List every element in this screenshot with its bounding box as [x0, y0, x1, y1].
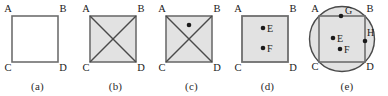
- corner-label-c: C: [4, 62, 11, 73]
- panel-caption-a: (a): [0, 80, 75, 92]
- point-marker-e: [331, 36, 336, 41]
- panel-caption-d: (d): [230, 80, 305, 92]
- panel-caption-e: (e): [306, 80, 388, 92]
- panel-caption-c: (c): [154, 80, 229, 92]
- corner-label-d: D: [213, 62, 221, 73]
- panel-b-drawing: A B C D: [78, 0, 153, 78]
- point-label-e: E: [267, 23, 273, 34]
- corner-label-a: A: [311, 3, 319, 14]
- corner-label-c: C: [158, 62, 165, 73]
- panel-caption-b: (b): [78, 80, 153, 92]
- point-label-g: G: [345, 5, 352, 16]
- corner-label-b: B: [289, 3, 296, 14]
- point-label-f: F: [344, 44, 350, 55]
- corner-label-d: D: [366, 61, 374, 72]
- figure-panel-d: E F A B C D (d): [230, 0, 305, 96]
- figure-panel-b: A B C D (b): [78, 0, 153, 96]
- point-marker-f: [338, 47, 343, 52]
- panel-a-drawing: A B C D: [0, 0, 75, 78]
- corner-label-c: C: [82, 62, 89, 73]
- point-marker-h: [363, 39, 368, 44]
- point-marker-unlabeled: [187, 23, 192, 28]
- corner-label-a: A: [4, 3, 12, 14]
- corner-label-d: D: [137, 62, 145, 73]
- figure-panel-a: A B C D (a): [0, 0, 75, 96]
- corner-label-b: B: [59, 3, 66, 14]
- point-label-h: H: [367, 27, 374, 38]
- point-label-f: F: [267, 43, 273, 54]
- point-marker-g: [339, 14, 344, 19]
- corner-label-a: A: [234, 3, 242, 14]
- point-label-e: E: [337, 33, 343, 44]
- point-marker-e: [261, 26, 266, 31]
- panel-c-drawing: A B C D: [154, 0, 229, 78]
- corner-label-b: B: [366, 3, 373, 14]
- corner-label-b: B: [213, 3, 220, 14]
- figure-panel-e: G E F H A B C D (e): [306, 0, 388, 96]
- panel-e-drawing: G E F H A B C D: [306, 0, 388, 78]
- corner-label-d: D: [59, 62, 67, 73]
- corner-label-a: A: [158, 3, 166, 14]
- corner-label-b: B: [137, 3, 144, 14]
- square-shape: [242, 16, 288, 62]
- corner-label-a: A: [82, 3, 90, 14]
- point-marker-f: [261, 46, 266, 51]
- square-shape: [12, 16, 58, 62]
- figure-panel-c: A B C D (c): [154, 0, 229, 96]
- geometry-figure-strip: A B C D (a) A B C D (b) A B C D: [0, 0, 388, 96]
- corner-label-d: D: [289, 62, 297, 73]
- corner-label-c: C: [311, 61, 318, 72]
- corner-label-c: C: [234, 62, 241, 73]
- panel-d-drawing: E F A B C D: [230, 0, 305, 78]
